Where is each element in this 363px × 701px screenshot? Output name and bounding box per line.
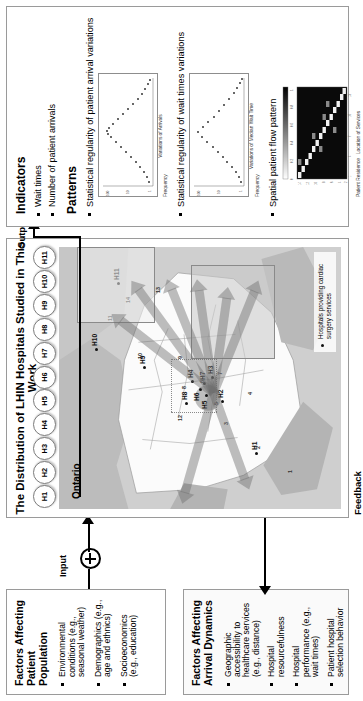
indicators-panel: Indicators Wait times Number of patient … bbox=[6, 6, 349, 227]
svg-text:14: 14 bbox=[298, 182, 302, 185]
svg-text:0.8: 0.8 bbox=[290, 104, 294, 109]
lhin-number: 1 bbox=[287, 470, 293, 473]
patterns-list: Statistical regularity of patient arriva… bbox=[85, 17, 362, 216]
scatter-plot-arrivals: 110100 bbox=[99, 74, 157, 196]
hospital-node-h5[interactable]: H5 bbox=[33, 389, 56, 412]
heatmap-xlabel: Location of Services bbox=[356, 111, 361, 154]
patient-population-panel: Factors Affecting Patient Population Env… bbox=[6, 589, 166, 695]
connector-population-to-junction bbox=[88, 569, 90, 589]
arrowhead-feedback bbox=[259, 586, 271, 595]
svg-text:6: 6 bbox=[330, 181, 334, 183]
plus-circle-icon bbox=[80, 548, 101, 569]
svg-text:0.2: 0.2 bbox=[290, 158, 294, 163]
svg-text:8: 8 bbox=[322, 181, 326, 183]
hospital-node-h10[interactable]: H10 bbox=[33, 270, 56, 293]
indicators-title: Indicators bbox=[15, 17, 28, 214]
svg-text:4: 4 bbox=[348, 155, 352, 157]
chart-arrival-variations: 110100 Variations of Arrivals Frequency bbox=[98, 17, 169, 197]
map-hospital-label-h9: H9 bbox=[139, 356, 146, 364]
heatmap-plot: 00.20.4 0.60.81 bbox=[281, 73, 355, 197]
svg-text:0.4: 0.4 bbox=[290, 140, 294, 145]
svg-text:0: 0 bbox=[290, 178, 294, 180]
patterns-title: Patterns bbox=[66, 17, 79, 214]
map-legend-text: Hospitals providing cardiac surgery serv… bbox=[317, 256, 333, 348]
connector-junction-to-map bbox=[88, 522, 90, 552]
list-item: Hospital resourcefulness bbox=[267, 598, 286, 686]
svg-text:1: 1 bbox=[239, 190, 243, 192]
patient-population-title: Factors Affecting Patient Population bbox=[14, 598, 49, 686]
list-item: Patient hospital selection behavior bbox=[327, 598, 346, 686]
svg-text:0.6: 0.6 bbox=[290, 122, 294, 127]
svg-text:10: 10 bbox=[126, 190, 130, 194]
chart-spatial-flow-heatmap: 00.20.4 0.60.81 bbox=[281, 17, 361, 197]
map-panel: The Distribution of LHIN Hospitals Studi… bbox=[6, 238, 349, 518]
svg-text:2: 2 bbox=[344, 181, 348, 183]
svg-text:13: 13 bbox=[348, 94, 352, 97]
list-item: Hospital performance (e.g., wait times) bbox=[292, 598, 320, 686]
hospital-node-h8[interactable]: H8 bbox=[33, 318, 56, 341]
arrival-dynamics-list: Geographic accessibility to healthcare s… bbox=[224, 598, 346, 686]
list-item: Number of patient arrivals bbox=[48, 17, 58, 216]
svg-text:4: 4 bbox=[338, 181, 342, 183]
connector-map-to-output bbox=[79, 236, 81, 497]
hospital-node-h4[interactable]: H4 bbox=[33, 413, 56, 436]
lhin-number: 4 bbox=[247, 392, 253, 395]
hospital-node-h6[interactable]: H6 bbox=[33, 366, 56, 389]
pattern-label-wait-times: Statistical regularity of wait times var… bbox=[176, 32, 186, 207]
hospital-node-h7[interactable]: H7 bbox=[33, 342, 56, 365]
svg-text:10: 10 bbox=[348, 114, 352, 117]
svg-text:100: 100 bbox=[197, 190, 201, 196]
map-hospital-label-h1: H1 bbox=[251, 442, 258, 450]
hospital-node-h2[interactable]: H2 bbox=[33, 461, 56, 484]
map-legend: Hospitals providing cardiac surgery serv… bbox=[314, 252, 336, 352]
scatter-plot-wait-times: 110100 bbox=[190, 74, 248, 196]
arrival-dynamics-panel: Factors Affecting Arrival Dynamics Geogr… bbox=[183, 589, 349, 695]
pattern-label-arrivals: Statistical regularity of patient arriva… bbox=[85, 18, 95, 207]
hospital-node-h11[interactable]: H11 bbox=[33, 246, 56, 269]
connector-output-vertical bbox=[33, 236, 81, 238]
input-label: Input bbox=[58, 555, 68, 577]
ontario-map[interactable]: Ontario 1 2 3 4 5 6 7 8 9 10 11 12 13 14… bbox=[59, 247, 341, 509]
svg-text:10: 10 bbox=[217, 190, 221, 194]
list-item: Demographics (e.g., age and ethnics) bbox=[94, 598, 113, 686]
heatmap-ylabel: Patient Residence bbox=[356, 158, 361, 197]
arrival-dynamics-title: Factors Affecting Arrival Dynamics bbox=[191, 598, 215, 686]
svg-text:10: 10 bbox=[314, 182, 318, 185]
svg-text:1: 1 bbox=[348, 175, 352, 177]
list-item: Spatial patient flow pattern 00.20.4 0.6 bbox=[268, 17, 361, 216]
list-item: Geographic accessibility to healthcare s… bbox=[224, 598, 262, 686]
lhin-number: 12 bbox=[177, 415, 183, 421]
list-item: Wait times bbox=[34, 17, 44, 216]
chart1-ylabel: Frequency bbox=[163, 17, 168, 197]
svg-text:12: 12 bbox=[306, 182, 310, 185]
chart-wait-time-variations: 110100 Variations of Median Wait Time Fr… bbox=[189, 17, 260, 197]
patient-population-list: Environmental conditions (e.g., seasonal… bbox=[58, 598, 138, 686]
list-item: Environmental conditions (e.g., seasonal… bbox=[58, 598, 86, 686]
chart2-ylabel: Frequency bbox=[255, 17, 260, 197]
hospital-node-h9[interactable]: H9 bbox=[33, 294, 56, 317]
svg-text:100: 100 bbox=[106, 190, 110, 196]
feedback-label: Feedback bbox=[352, 471, 363, 515]
hospital-node-row: H1 H2 H3 H4 H5 H6 H7 H8 H9 H10 H11 bbox=[33, 246, 56, 508]
svg-text:7: 7 bbox=[348, 135, 352, 137]
indicators-list: Wait times Number of patient arrivals bbox=[34, 17, 58, 216]
hospital-node-h1[interactable]: H1 bbox=[33, 485, 56, 508]
map-hospital-label-h10: H10 bbox=[91, 334, 98, 346]
hospital-node-h3[interactable]: H3 bbox=[33, 437, 56, 460]
list-item: Statistical regularity of patient arriva… bbox=[85, 17, 169, 216]
pattern-label-spatial-flow: Spatial patient flow pattern bbox=[268, 99, 278, 207]
list-item: Socioeconomics (e.g., education) bbox=[120, 598, 139, 686]
list-item: Statistical regularity of wait times var… bbox=[176, 17, 260, 216]
svg-text:1: 1 bbox=[290, 89, 294, 91]
svg-text:1: 1 bbox=[148, 190, 152, 192]
